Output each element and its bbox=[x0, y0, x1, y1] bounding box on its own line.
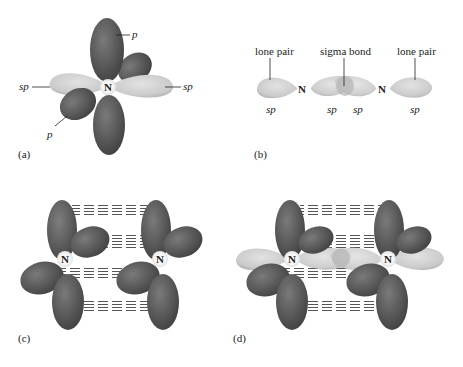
label-sp-left: sp bbox=[19, 80, 29, 92]
p-orbital-lobe bbox=[275, 200, 305, 260]
p-orbital-bottom bbox=[93, 95, 125, 155]
p-orbital-lobe bbox=[276, 274, 308, 330]
sigma-overlap bbox=[336, 76, 354, 96]
sp-lone-pair-right bbox=[390, 77, 432, 98]
atom-n-right: N bbox=[156, 253, 164, 265]
pi-bond-bottom bbox=[72, 299, 152, 313]
atom-n-left: N bbox=[298, 83, 306, 95]
label-p-bottom: p bbox=[46, 128, 53, 140]
p-orbital-lobe bbox=[376, 274, 408, 330]
panel-label-c: (c) bbox=[18, 332, 31, 345]
panel-label-d: (d) bbox=[233, 332, 246, 345]
atom-n-left: N bbox=[61, 253, 69, 265]
atom-n: N bbox=[104, 81, 112, 93]
pi-bond-top bbox=[300, 203, 382, 217]
label-sp-right: sp bbox=[183, 80, 193, 92]
p-orbital-lobe bbox=[147, 274, 179, 330]
panel-label-a: (a) bbox=[18, 148, 31, 161]
atom-n-left: N bbox=[288, 253, 296, 265]
annotation-lone-pair-left: lone pair bbox=[255, 45, 294, 57]
annotation-sigma-bond: sigma bond bbox=[320, 45, 372, 57]
label-sp-1: sp bbox=[266, 103, 276, 115]
sp-lone-pair-left bbox=[257, 77, 297, 98]
atom-n-right: N bbox=[384, 253, 392, 265]
label-p-top: p bbox=[131, 28, 138, 40]
panel-a: N p sp sp p (a) bbox=[18, 18, 193, 161]
label-sp-4: sp bbox=[410, 103, 420, 115]
label-sp-3: sp bbox=[353, 103, 363, 115]
p-orbital-lobe bbox=[374, 200, 404, 260]
panel-c: N N (c) bbox=[17, 200, 207, 345]
panel-b: N N lone pair sigma bond lone pair sp sp… bbox=[254, 45, 436, 161]
panel-label-b: (b) bbox=[254, 148, 267, 161]
panel-d: N N (d) bbox=[233, 200, 444, 345]
p-orbital-top bbox=[90, 18, 124, 82]
label-sp-2: sp bbox=[327, 103, 337, 115]
atom-n-right: N bbox=[378, 83, 386, 95]
p-orbital-lobe bbox=[52, 274, 84, 330]
n2-orbital-diagram: N p sp sp p (a) N N lone pair sigma bond… bbox=[0, 0, 463, 367]
pi-bond-top bbox=[72, 203, 152, 217]
sp-orbital-right bbox=[110, 75, 173, 98]
pi-bond-bottom bbox=[300, 299, 382, 313]
sigma-overlap bbox=[332, 248, 350, 268]
annotation-lone-pair-right: lone pair bbox=[397, 45, 436, 57]
